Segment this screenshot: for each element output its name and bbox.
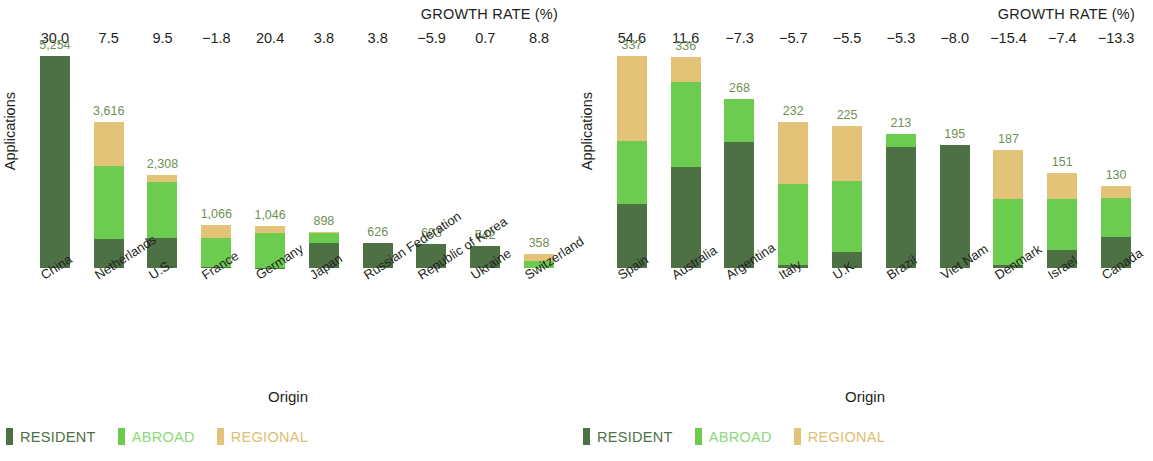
bar-segment-regional[interactable]: [255, 226, 285, 233]
bar-segment-abroad[interactable]: [1101, 198, 1131, 238]
bar-segment-resident[interactable]: [886, 147, 916, 268]
bar-slot: 1,046: [243, 56, 297, 268]
bar-segment-abroad[interactable]: [147, 182, 177, 238]
bar-slot: 130: [1089, 56, 1143, 268]
legend-item-resident[interactable]: RESIDENT: [6, 428, 96, 445]
bar-segment-regional[interactable]: [94, 122, 124, 166]
legend-item-abroad[interactable]: ABROAD: [695, 428, 772, 445]
stacked-bar[interactable]: [886, 134, 916, 268]
bar-slot: 5,254: [28, 56, 82, 268]
legend-swatch-icon: [695, 428, 702, 445]
bar-value-label: 336: [675, 39, 696, 53]
stacked-bar[interactable]: [778, 122, 808, 268]
bar-segment-resident[interactable]: [40, 56, 70, 268]
bar-value-label: 358: [529, 236, 550, 250]
growth-rate-value: 9.5: [136, 30, 190, 46]
bar-segment-abroad[interactable]: [832, 181, 862, 252]
growth-rate-value: 0.7: [458, 30, 512, 46]
bar-value-label: 337: [621, 38, 642, 52]
stacked-bar[interactable]: [724, 99, 754, 268]
growth-rate-value: 8.8: [512, 30, 566, 46]
legend-label: REGIONAL: [231, 429, 308, 445]
bar-slot: 898: [297, 56, 351, 268]
growth-rate-value: −5.3: [874, 30, 928, 46]
stacked-bar[interactable]: [832, 126, 862, 268]
bar-segment-regional[interactable]: [1101, 186, 1131, 197]
bar-value-label: 1,046: [254, 208, 285, 222]
stacked-bar[interactable]: [617, 56, 647, 268]
legend-item-regional[interactable]: REGIONAL: [217, 428, 308, 445]
chart-panel-right: GROWTH RATE (%) 54.611.6−7.3−5.7−5.5−5.3…: [577, 0, 1153, 461]
figure-stacked-bar-charts: GROWTH RATE (%) 30.07.59.5−1.820.43.83.8…: [0, 0, 1153, 461]
bar-value-label: 2,308: [147, 157, 178, 171]
growth-rate-value: −5.9: [405, 30, 459, 46]
bar-value-label: 187: [998, 132, 1019, 146]
bar-value-label: 5,254: [39, 38, 70, 52]
bar-segment-regional[interactable]: [201, 225, 231, 238]
growth-rate-value: −15.4: [982, 30, 1036, 46]
bar-segment-abroad[interactable]: [617, 141, 647, 205]
bar-value-label: 130: [1106, 168, 1127, 182]
bar-segment-abroad[interactable]: [724, 99, 754, 141]
bar-slot: 225: [820, 56, 874, 268]
legend-label: REGIONAL: [808, 429, 885, 445]
bar-segment-regional[interactable]: [993, 150, 1023, 199]
bar-slot: 213: [874, 56, 928, 268]
growth-rate-value: 7.5: [82, 30, 136, 46]
growth-rate-value: −7.3: [713, 30, 767, 46]
bar-segment-regional[interactable]: [617, 56, 647, 141]
bar-segment-abroad[interactable]: [886, 134, 916, 147]
bar-slot: 336: [659, 56, 713, 268]
stacked-bar[interactable]: [94, 122, 124, 268]
bar-segment-abroad[interactable]: [778, 184, 808, 265]
bar-segment-regional[interactable]: [832, 126, 862, 180]
growth-rate-value: 20.4: [243, 30, 297, 46]
bar-slot: 337: [605, 56, 659, 268]
bar-segment-abroad[interactable]: [671, 82, 701, 166]
stacked-bar[interactable]: [40, 56, 70, 268]
category-axis-labels: SpainAustraliaArgentinaItalyU.K.BrazilVi…: [605, 270, 1143, 360]
bar-value-label: 626: [367, 225, 388, 239]
bar-value-label: 268: [729, 81, 750, 95]
bar-slot: 268: [713, 56, 767, 268]
growth-rate-value: −8.0: [928, 30, 982, 46]
legend-swatch-icon: [6, 428, 13, 445]
bar-slot: 151: [1035, 56, 1089, 268]
stacked-bar[interactable]: [940, 145, 970, 268]
bar-segment-resident[interactable]: [940, 145, 970, 268]
legend: RESIDENTABROADREGIONAL: [6, 428, 330, 445]
stacked-bar[interactable]: [147, 175, 177, 268]
stacked-bar[interactable]: [993, 150, 1023, 268]
legend-label: ABROAD: [132, 429, 195, 445]
legend: RESIDENTABROADREGIONAL: [583, 428, 907, 445]
legend-label: ABROAD: [709, 429, 772, 445]
bar-slot: 195: [928, 56, 982, 268]
legend-item-regional[interactable]: REGIONAL: [794, 428, 885, 445]
bar-segment-regional[interactable]: [671, 57, 701, 83]
stacked-bar[interactable]: [671, 57, 701, 268]
x-axis-title: Origin: [0, 388, 576, 405]
growth-rate-value: −7.4: [1035, 30, 1089, 46]
bar-segment-regional[interactable]: [778, 122, 808, 184]
bar-slot: 626: [351, 56, 405, 268]
bar-segment-regional[interactable]: [1047, 173, 1077, 199]
legend-item-abroad[interactable]: ABROAD: [118, 428, 195, 445]
bar-value-label: 195: [944, 127, 965, 141]
bar-value-label: 225: [837, 108, 858, 122]
bar-value-label: 232: [783, 104, 804, 118]
growth-rate-value: 3.8: [297, 30, 351, 46]
legend-swatch-icon: [583, 428, 590, 445]
bar-segment-regional[interactable]: [147, 175, 177, 182]
bar-segment-abroad[interactable]: [1047, 199, 1077, 250]
bar-value-label: 898: [313, 214, 334, 228]
category-axis-labels: ChinaNetherlandsU.S.FranceGermanyJapanRu…: [28, 270, 566, 360]
growth-rate-row: 30.07.59.5−1.820.43.83.8−5.90.78.8: [28, 30, 566, 50]
bar-segment-resident[interactable]: [724, 142, 754, 268]
growth-rate-title: GROWTH RATE (%): [421, 6, 558, 22]
growth-rate-value: −1.8: [189, 30, 243, 46]
legend-item-resident[interactable]: RESIDENT: [583, 428, 673, 445]
bar-segment-abroad[interactable]: [94, 166, 124, 239]
x-axis-title: Origin: [577, 388, 1153, 405]
bar-segment-abroad[interactable]: [309, 233, 339, 243]
bar-slot: 1,066: [189, 56, 243, 268]
